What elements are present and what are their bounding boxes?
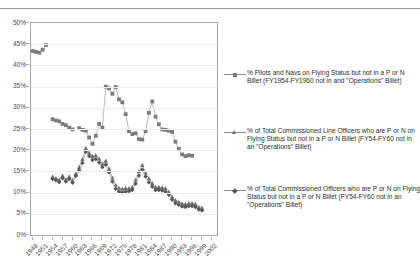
- data-point-marker: [97, 122, 101, 126]
- y-axis-tick-label: 35%: [13, 82, 26, 89]
- legend-marker-square-icon: [224, 70, 246, 79]
- data-point-marker: [91, 142, 95, 146]
- x-axis-tick-mark: [151, 237, 152, 240]
- data-point-marker: [133, 181, 137, 185]
- y-axis-tick-label: 10%: [13, 188, 26, 195]
- data-point-marker: [124, 112, 128, 116]
- y-axis-tick-mark: [26, 213, 29, 214]
- data-point-marker: [104, 159, 108, 163]
- y-axis-tick-mark: [26, 170, 29, 171]
- data-point-marker: [80, 161, 84, 165]
- gridline: [31, 171, 217, 172]
- data-point-marker: [154, 115, 158, 119]
- x-axis-tick-mark: [161, 237, 162, 240]
- y-axis-tick-label: 40%: [13, 61, 26, 68]
- x-axis-tick-mark: [101, 237, 102, 240]
- y-axis-tick-label: 5%: [17, 209, 26, 216]
- x-axis-tick-mark: [81, 237, 82, 240]
- data-point-marker: [34, 50, 38, 54]
- data-point-marker: [54, 119, 58, 123]
- legend-item-1[interactable]: % Pilots and Navs on Flying Status but n…: [224, 69, 420, 85]
- x-axis-tick-mark: [131, 237, 132, 240]
- data-point-marker: [147, 111, 151, 115]
- data-point-marker: [187, 153, 191, 157]
- data-point-marker: [110, 92, 114, 96]
- legend-item-3[interactable]: % of Total Commissioned Officers who are…: [224, 185, 420, 210]
- data-point-marker: [31, 49, 35, 53]
- legend-marker-diamond-icon: [224, 186, 246, 195]
- x-axis-tick-mark: [62, 237, 63, 240]
- data-point-marker: [137, 137, 141, 141]
- y-axis-tick-label: 50%: [13, 19, 26, 26]
- data-point-marker: [140, 163, 144, 167]
- plot-wrapper: 0%5%10%15%20%25%30%35%40%45%50% 19481951…: [0, 9, 222, 247]
- legend-item-label: % of Total Commissioned Officers who are…: [246, 185, 420, 210]
- data-point-marker: [184, 154, 188, 158]
- data-point-marker: [157, 122, 161, 126]
- y-axis-tick-mark: [26, 107, 29, 108]
- legend-item-label: % of Total Commissioned Line Officers wh…: [246, 127, 420, 152]
- y-axis-tick-mark: [26, 192, 29, 193]
- chart-container: 0%5%10%15%20%25%30%35%40%45%50% 19481951…: [0, 9, 420, 273]
- gridline: [31, 44, 217, 45]
- series-1: [31, 43, 194, 158]
- data-point-marker: [110, 179, 114, 183]
- gridline: [31, 129, 217, 130]
- x-axis-tick-mark: [211, 237, 212, 240]
- x-axis-tick-mark: [111, 237, 112, 240]
- y-axis-tick-label: 30%: [13, 103, 26, 110]
- data-point-marker: [94, 134, 98, 138]
- x-axis-tick-mark: [42, 237, 43, 240]
- y-axis-tick-label: 20%: [13, 146, 26, 153]
- plot-area: [30, 22, 218, 236]
- x-axis-tick-mark: [52, 237, 53, 240]
- x-axis-tick-mark: [171, 237, 172, 240]
- y-axis-tick-label: 25%: [13, 125, 26, 132]
- x-axis-tick-mark: [91, 237, 92, 240]
- gridline: [31, 193, 217, 194]
- y-axis-tick-label: 15%: [13, 167, 26, 174]
- y-axis-tick-mark: [26, 234, 29, 235]
- y-axis-tick-mark: [26, 128, 29, 129]
- data-point-marker: [134, 131, 138, 135]
- x-axis-tick-mark: [72, 237, 73, 240]
- gridline: [31, 65, 217, 66]
- data-point-marker: [174, 140, 178, 144]
- chart-legend: % Pilots and Navs on Flying Status but n…: [224, 69, 420, 234]
- data-point-marker: [64, 123, 68, 127]
- legend-marker-triangle-icon: [224, 128, 246, 137]
- x-axis-tick-mark: [181, 237, 182, 240]
- data-point-marker: [140, 138, 144, 142]
- gridline: [31, 87, 217, 88]
- y-axis: 0%5%10%15%20%25%30%35%40%45%50%: [0, 9, 28, 247]
- y-axis-tick-mark: [26, 86, 29, 87]
- data-point-marker: [37, 51, 41, 55]
- y-axis-tick-mark: [26, 43, 29, 44]
- x-axis-tick-mark: [191, 237, 192, 240]
- series-line: [79, 87, 192, 157]
- x-axis-tick-mark: [32, 237, 33, 240]
- x-axis: 1948195119541957196019631966196919721975…: [0, 237, 222, 273]
- data-point-marker: [94, 153, 98, 157]
- data-point-marker: [180, 153, 184, 157]
- data-point-marker: [51, 117, 55, 121]
- y-axis-tick-mark: [26, 149, 29, 150]
- x-axis-tick-mark: [141, 237, 142, 240]
- y-axis-tick-mark: [26, 22, 29, 23]
- data-point-marker: [57, 119, 61, 123]
- data-point-marker: [150, 100, 154, 104]
- x-axis-tick-mark: [121, 237, 122, 240]
- gridline: [31, 150, 217, 151]
- data-point-marker: [190, 154, 194, 158]
- legend-item-2[interactable]: % of Total Commissioned Line Officers wh…: [224, 127, 420, 152]
- data-point-marker: [137, 173, 141, 177]
- x-axis-tick-mark: [201, 237, 202, 240]
- data-point-marker: [117, 97, 121, 101]
- data-point-marker: [41, 48, 45, 52]
- gridline: [31, 108, 217, 109]
- y-axis-tick-label: 45%: [13, 40, 26, 47]
- legend-item-label: % Pilots and Navs on Flying Status but n…: [246, 69, 420, 85]
- data-point-marker: [61, 122, 65, 126]
- data-point-marker: [120, 100, 124, 104]
- y-axis-tick-mark: [26, 64, 29, 65]
